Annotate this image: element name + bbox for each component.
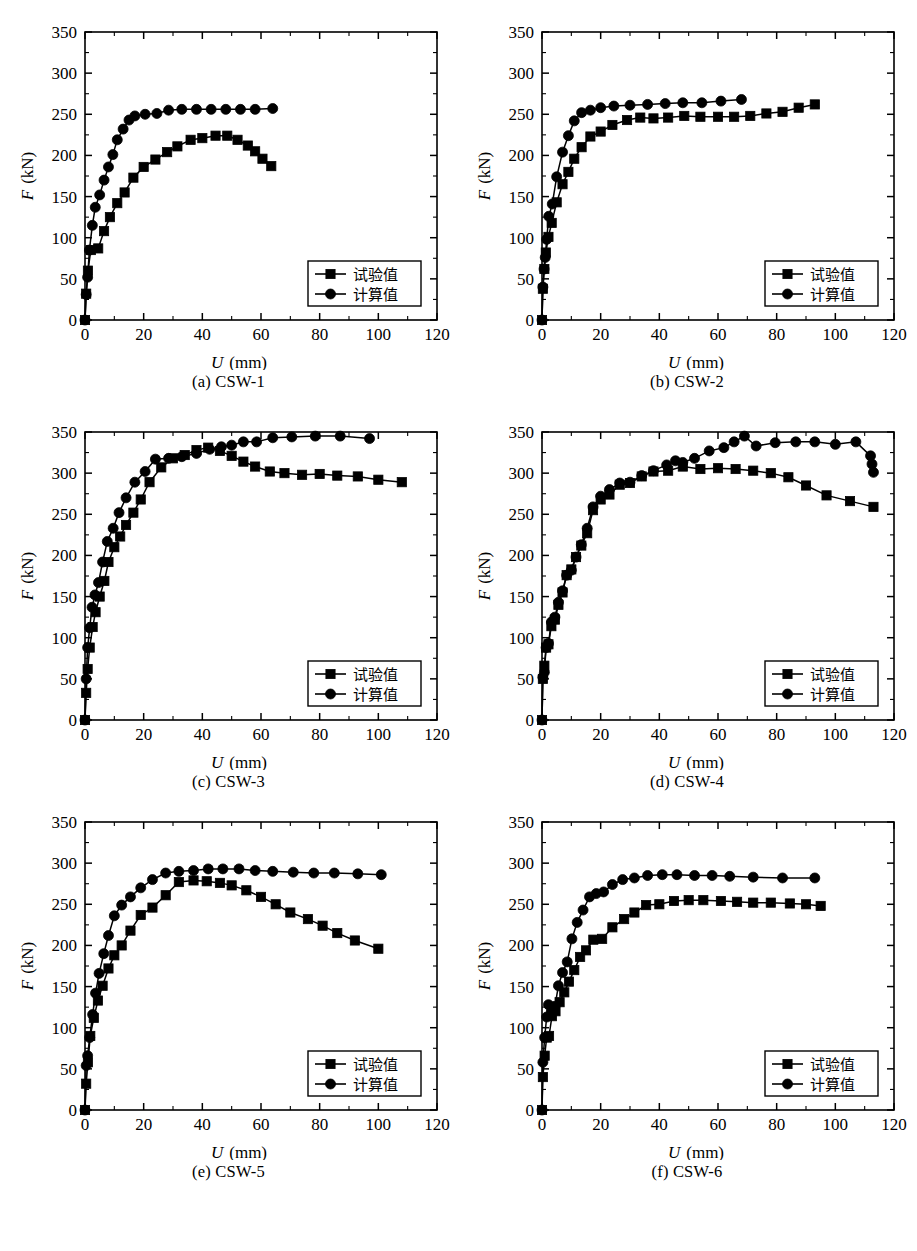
data-point — [637, 471, 647, 481]
legend-label: 计算值 — [810, 1076, 855, 1094]
chart-panel-csw-6: 020406080100120050100150200250300350U(mm… — [457, 790, 917, 1190]
data-point — [90, 590, 100, 600]
y-tick-label: 350 — [52, 23, 78, 42]
x-tick-label: 20 — [592, 325, 609, 344]
data-point — [130, 477, 140, 487]
x-tick-label: 40 — [194, 325, 211, 344]
y-tick-label: 100 — [509, 629, 535, 648]
data-point — [696, 112, 705, 121]
data-point — [598, 934, 607, 943]
data-point — [287, 432, 297, 442]
data-point — [643, 99, 653, 109]
x-tick-label: 100 — [366, 725, 392, 744]
series-calculated — [537, 94, 746, 325]
data-point — [660, 99, 670, 109]
data-point — [227, 451, 236, 460]
data-point — [189, 866, 199, 876]
legend-label: 计算值 — [810, 286, 855, 304]
data-point — [80, 1105, 90, 1115]
data-point — [84, 245, 94, 255]
data-point — [93, 578, 103, 588]
legend-marker-square — [326, 1059, 335, 1068]
plot-area-csw-2: 020406080100120050100150200250300350U(mm… — [457, 0, 914, 370]
data-point — [538, 1057, 548, 1067]
x-tick-label: 40 — [194, 725, 211, 744]
data-point — [252, 437, 262, 447]
data-point — [116, 532, 125, 541]
y-axis-title: F(kN) — [475, 552, 494, 602]
x-tick-label: 40 — [651, 325, 668, 344]
data-point — [596, 127, 605, 136]
x-tick-label: 20 — [135, 325, 152, 344]
data-point — [303, 914, 312, 923]
x-tick-label: 100 — [823, 325, 849, 344]
legend-label: 试验值 — [353, 666, 398, 684]
legend-label: 试验值 — [353, 266, 398, 284]
data-point — [221, 104, 231, 114]
data-point — [250, 104, 260, 114]
data-point — [177, 104, 187, 114]
data-point — [794, 103, 803, 112]
y-tick-label: 250 — [52, 105, 78, 124]
data-point — [566, 565, 576, 575]
svg-text:F(kN): F(kN) — [475, 942, 494, 992]
data-point — [152, 108, 162, 118]
data-point — [83, 664, 92, 673]
data-point — [778, 107, 787, 116]
data-point — [643, 870, 653, 880]
x-tick-label: 100 — [366, 1115, 392, 1134]
data-point — [120, 188, 129, 197]
data-point — [98, 981, 107, 990]
data-point — [762, 109, 771, 118]
data-point — [286, 908, 295, 917]
data-point — [558, 147, 568, 157]
data-point — [126, 926, 135, 935]
data-point — [538, 282, 548, 292]
data-point — [189, 876, 198, 885]
data-point — [655, 900, 664, 909]
data-point — [109, 911, 119, 921]
legend-marker-square — [783, 1059, 792, 1068]
data-point — [730, 112, 739, 121]
data-point — [250, 866, 260, 876]
data-point — [869, 502, 878, 511]
data-point — [315, 469, 324, 478]
data-point — [238, 437, 248, 447]
data-point — [258, 154, 267, 163]
x-tick-label: 80 — [768, 725, 785, 744]
data-point — [642, 901, 651, 910]
data-point — [830, 439, 840, 449]
y-tick-label: 150 — [52, 978, 78, 997]
data-point — [88, 1010, 98, 1020]
x-axis-title: U(mm) — [668, 353, 724, 370]
x-tick-label: 60 — [253, 325, 270, 344]
y-tick-label: 0 — [69, 311, 78, 330]
data-point — [335, 431, 345, 441]
data-point — [288, 867, 298, 877]
data-point — [739, 431, 749, 441]
data-point — [333, 471, 342, 480]
data-point — [376, 870, 386, 880]
data-point — [845, 497, 854, 506]
data-point — [117, 941, 126, 950]
data-point — [105, 213, 114, 222]
data-point — [569, 116, 579, 126]
legend-marker-square — [783, 269, 792, 278]
data-point — [553, 981, 563, 991]
data-point — [268, 104, 278, 114]
data-point — [707, 870, 717, 880]
data-point — [218, 864, 228, 874]
y-tick-label: 100 — [52, 1019, 78, 1038]
data-point — [713, 112, 722, 121]
data-point — [553, 597, 563, 607]
y-tick-label: 300 — [52, 464, 78, 483]
x-tick-label: 0 — [538, 1115, 547, 1134]
data-point — [205, 444, 215, 454]
data-point — [103, 931, 113, 941]
data-point — [99, 175, 109, 185]
data-point — [704, 446, 714, 456]
data-point — [680, 111, 689, 120]
data-point — [125, 892, 135, 902]
data-point — [636, 113, 645, 122]
data-point — [234, 864, 244, 874]
